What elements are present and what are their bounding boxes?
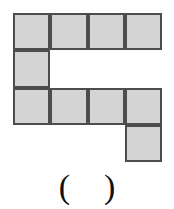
grid-cell-filled: [13, 13, 50, 50]
grid-cell-empty: [88, 125, 125, 162]
open-paren: (: [59, 170, 70, 204]
close-paren: ): [104, 170, 115, 204]
grid-cell-empty: [125, 50, 162, 87]
grid-cell-filled: [125, 13, 162, 50]
polyomino-grid: [13, 13, 162, 162]
grid-cell-empty: [13, 125, 50, 162]
grid-cell-empty: [50, 50, 87, 87]
answer-blank[interactable]: [70, 187, 104, 188]
grid-cell-filled: [50, 88, 87, 125]
puzzle-figure-canvas: ( ): [0, 0, 174, 209]
grid-cell-filled: [13, 88, 50, 125]
grid-cell-filled: [88, 13, 125, 50]
answer-line: ( ): [0, 168, 174, 206]
grid-cell-filled: [50, 13, 87, 50]
grid-cell-filled: [125, 88, 162, 125]
grid-cell-filled: [13, 50, 50, 87]
grid-cell-filled: [125, 125, 162, 162]
grid-cell-empty: [88, 50, 125, 87]
grid-cell-empty: [50, 125, 87, 162]
grid-cell-filled: [88, 88, 125, 125]
